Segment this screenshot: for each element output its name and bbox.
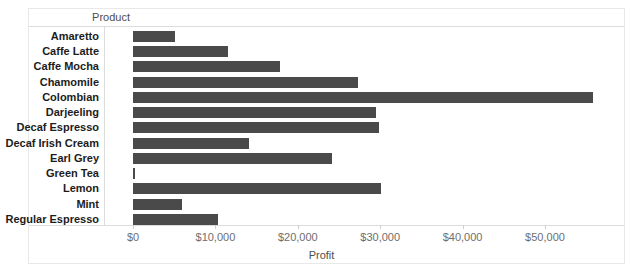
bar[interactable] xyxy=(133,153,332,164)
bar-track xyxy=(133,120,624,135)
bar-row-label: Earl Grey xyxy=(0,151,99,166)
bar[interactable] xyxy=(133,61,280,72)
bar[interactable] xyxy=(133,107,376,118)
bar-row-label: Lemon xyxy=(0,181,99,196)
bar-track xyxy=(133,44,624,59)
bar-row[interactable]: Decaf Irish Cream xyxy=(0,136,595,151)
bar-row[interactable]: Amaretto xyxy=(0,29,595,44)
bar[interactable] xyxy=(133,92,593,103)
x-tick-label: $30,000 xyxy=(360,231,400,243)
x-tick-mark xyxy=(133,225,134,229)
bar[interactable] xyxy=(133,77,358,88)
bar[interactable] xyxy=(133,138,249,149)
bar-chart: Product AmarettoCaffe LatteCaffe MochaCh… xyxy=(0,0,629,272)
bar-row[interactable]: Chamomile xyxy=(0,75,595,90)
bar-row[interactable]: Darjeeling xyxy=(0,105,595,120)
bar-track xyxy=(133,29,624,44)
bar-row[interactable]: Caffe Mocha xyxy=(0,59,595,74)
x-axis-title-wrap: Profit xyxy=(0,249,629,261)
x-tick-mark xyxy=(215,225,216,229)
bar-row[interactable]: Decaf Espresso xyxy=(0,120,595,135)
bar-row-label: Caffe Mocha xyxy=(0,59,99,74)
x-tick-label: $20,000 xyxy=(278,231,318,243)
bar-row-label: Mint xyxy=(0,197,99,212)
bar-row[interactable]: Colombian xyxy=(0,90,595,105)
bar-row-label: Colombian xyxy=(0,90,99,105)
bar-track xyxy=(133,212,624,227)
bar-row-label: Regular Espresso xyxy=(0,212,99,227)
bar-track xyxy=(133,75,624,90)
bar[interactable] xyxy=(133,183,381,194)
x-tick-mark xyxy=(298,225,299,229)
bar[interactable] xyxy=(133,199,182,210)
x-tick-mark xyxy=(380,225,381,229)
bar[interactable] xyxy=(133,168,135,179)
y-axis-field-caption: Product xyxy=(30,11,130,23)
bar[interactable] xyxy=(133,46,228,57)
bar[interactable] xyxy=(133,214,218,225)
x-tick-label: $50,000 xyxy=(525,231,565,243)
x-axis-title: Profit xyxy=(309,249,335,261)
bar-row-label: Green Tea xyxy=(0,166,99,181)
bar-track xyxy=(133,197,624,212)
bar-row-label: Darjeeling xyxy=(0,105,99,120)
bar-row[interactable]: Green Tea xyxy=(0,166,595,181)
bar-row-label: Chamomile xyxy=(0,75,99,90)
bar-row[interactable]: Lemon xyxy=(0,181,595,196)
x-tick-mark xyxy=(463,225,464,229)
bar-row[interactable]: Caffe Latte xyxy=(0,44,595,59)
bar-track xyxy=(133,136,624,151)
bar[interactable] xyxy=(133,31,175,42)
x-tick-label: $0 xyxy=(127,231,139,243)
bar-row-label: Caffe Latte xyxy=(0,44,99,59)
bar-track xyxy=(133,166,624,181)
bar-track xyxy=(133,181,624,196)
x-tick-mark xyxy=(545,225,546,229)
bar-row-label: Decaf Espresso xyxy=(0,120,99,135)
bar-track xyxy=(133,105,624,120)
bar-track xyxy=(133,59,624,74)
bar-row[interactable]: Earl Grey xyxy=(0,151,595,166)
x-tick-label: $10,000 xyxy=(196,231,236,243)
bar-row-label: Amaretto xyxy=(0,29,99,44)
x-tick-label: $40,000 xyxy=(443,231,483,243)
bar-row[interactable]: Mint xyxy=(0,197,595,212)
bar[interactable] xyxy=(133,122,379,133)
bar-track xyxy=(133,90,624,105)
bar-row-label: Decaf Irish Cream xyxy=(0,136,99,151)
bar-track xyxy=(133,151,624,166)
